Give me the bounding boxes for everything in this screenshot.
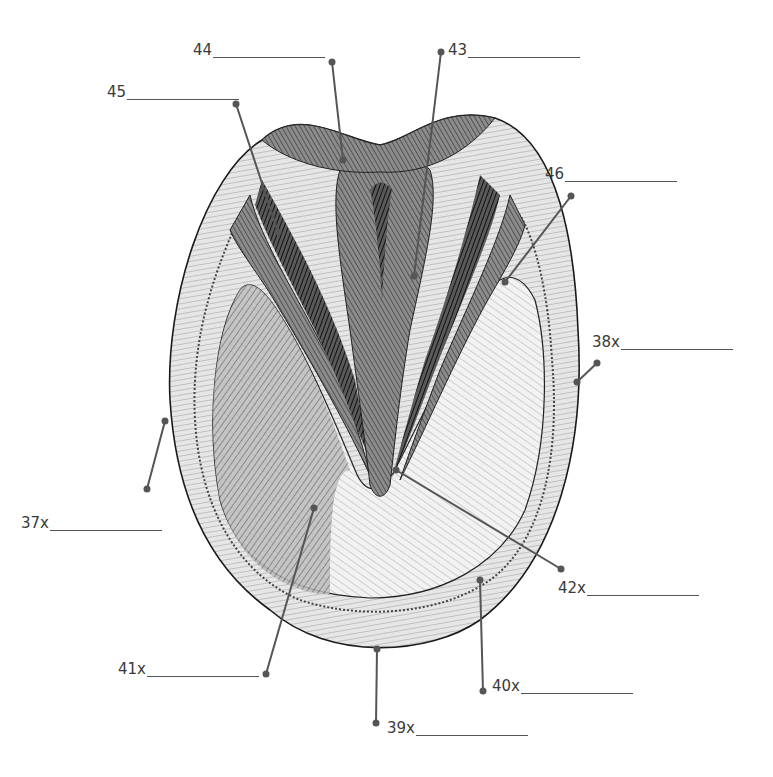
label-number: 44 [193, 42, 212, 58]
answer-blank[interactable] [587, 583, 699, 596]
pointer-dot-43 [438, 49, 445, 56]
leader-line-45 [236, 104, 278, 232]
leader-line-43 [414, 52, 441, 276]
answer-blank[interactable] [416, 723, 528, 736]
label-number: 46 [545, 166, 564, 182]
target-dot-42x [393, 467, 400, 474]
label-number: 42x [558, 580, 586, 596]
hoof-diagram: 44 45 43 46 38x 37x 42x 41x 40x 39x [0, 0, 773, 777]
leader-line-38x [577, 363, 597, 382]
target-dot-38x [574, 379, 581, 386]
target-dot-41x [311, 505, 318, 512]
pointer-dot-45 [233, 101, 240, 108]
label-number: 40x [492, 678, 520, 694]
label-44: 44 [193, 42, 325, 58]
leader-line-40x [480, 580, 483, 691]
answer-blank[interactable] [565, 169, 677, 182]
leader-line-37x [147, 421, 165, 489]
label-number: 45 [107, 84, 126, 100]
target-dot-39x [374, 646, 381, 653]
label-42x: 42x [558, 580, 699, 596]
label-46: 46 [545, 166, 677, 182]
label-38x: 38x [592, 334, 733, 350]
target-dot-44 [340, 157, 347, 164]
label-number: 38x [592, 334, 620, 350]
label-39x: 39x [387, 720, 528, 736]
pointer-dot-39x [373, 720, 380, 727]
leader-line-46 [505, 196, 571, 282]
target-dot-40x [477, 577, 484, 584]
target-dot-45 [275, 229, 282, 236]
leader-lines [0, 0, 773, 777]
leader-line-41x [266, 508, 314, 674]
target-dot-46 [502, 279, 509, 286]
target-dot-37x [162, 418, 169, 425]
pointer-dot-40x [480, 688, 487, 695]
label-43: 43 [448, 42, 580, 58]
label-number: 41x [118, 661, 146, 677]
leader-line-39x [376, 649, 377, 723]
answer-blank[interactable] [127, 87, 239, 100]
label-45: 45 [107, 84, 239, 100]
leader-line-42x [396, 470, 561, 569]
pointer-dot-42x [558, 566, 565, 573]
answer-blank[interactable] [468, 45, 580, 58]
pointer-dot-37x [144, 486, 151, 493]
label-41x: 41x [118, 661, 259, 677]
answer-blank[interactable] [521, 681, 633, 694]
target-dot-43 [411, 273, 418, 280]
pointer-dot-38x [594, 360, 601, 367]
answer-blank[interactable] [147, 664, 259, 677]
label-number: 37x [21, 515, 49, 531]
answer-blank[interactable] [50, 518, 162, 531]
leader-line-44 [332, 62, 343, 160]
label-number: 43 [448, 42, 467, 58]
label-40x: 40x [492, 678, 633, 694]
label-number: 39x [387, 720, 415, 736]
pointer-dot-44 [329, 59, 336, 66]
answer-blank[interactable] [621, 337, 733, 350]
answer-blank[interactable] [213, 45, 325, 58]
label-37x: 37x [21, 515, 162, 531]
pointer-dot-41x [263, 671, 270, 678]
pointer-dot-46 [568, 193, 575, 200]
